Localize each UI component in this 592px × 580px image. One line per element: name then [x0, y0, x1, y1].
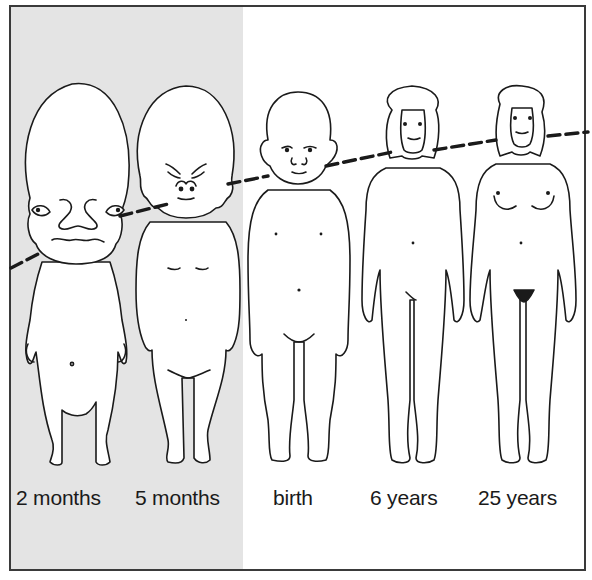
figure-2-months [26, 84, 129, 465]
stage-label-2-months: 2 months [16, 486, 101, 510]
stage-label-6-years: 6 years [370, 486, 437, 510]
figure-birth [248, 92, 350, 461]
figure-5-months [136, 86, 240, 463]
stage-label-25-years: 25 years [478, 486, 557, 510]
stage-label-birth: birth [273, 486, 313, 510]
figure-6-years [362, 86, 464, 463]
stage-label-5-months: 5 months [135, 486, 220, 510]
